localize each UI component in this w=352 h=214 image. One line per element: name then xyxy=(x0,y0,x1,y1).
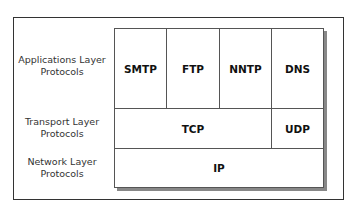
nntp-cell: NNTP xyxy=(220,29,272,109)
label-line: Applications Layer xyxy=(12,54,112,66)
smtp-cell: SMTP xyxy=(115,29,167,109)
network-layer-label: Network Layer Protocols xyxy=(12,156,112,180)
ftp-cell: FTP xyxy=(167,29,220,109)
label-line: Transport Layer xyxy=(12,116,112,128)
dns-cell: DNS xyxy=(272,29,323,109)
tcp-cell: TCP xyxy=(115,109,272,149)
label-line: Protocols xyxy=(12,168,112,180)
udp-cell: UDP xyxy=(272,109,323,149)
label-line: Protocols xyxy=(12,66,112,78)
applications-layer-label: Applications Layer Protocols xyxy=(12,54,112,78)
label-line: Network Layer xyxy=(12,156,112,168)
ip-cell: IP xyxy=(115,149,323,187)
protocol-grid: SMTP FTP NNTP DNS TCP UDP IP xyxy=(114,28,324,188)
label-line: Protocols xyxy=(12,128,112,140)
transport-layer-label: Transport Layer Protocols xyxy=(12,116,112,140)
